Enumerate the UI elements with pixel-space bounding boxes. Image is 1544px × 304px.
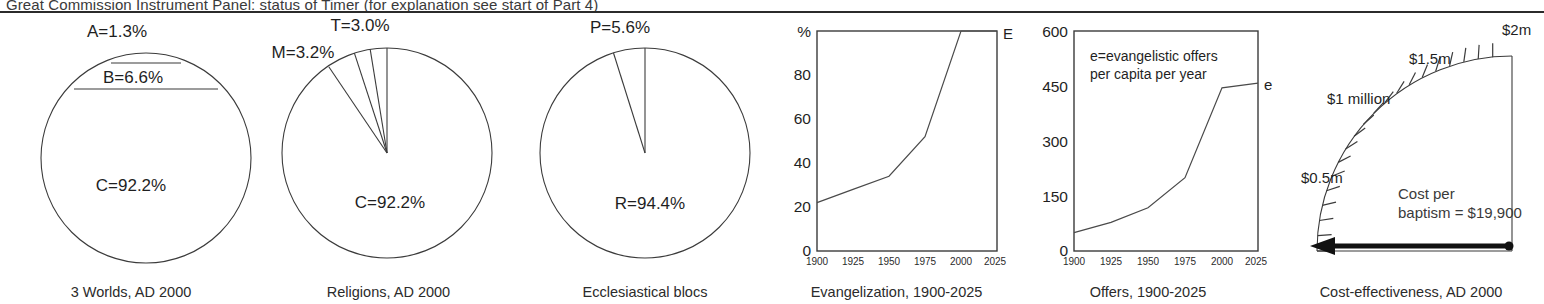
three-worlds-figure: A=1.3% B=6.6% C=92.2% (0, 13, 262, 275)
caption-evangelization: Evangelization, 1900-2025 (775, 284, 1018, 300)
series-line-offers (1074, 83, 1258, 233)
ytick-40: 40 (794, 154, 812, 171)
ytick-300: 300 (1042, 133, 1068, 150)
panel-three-worlds: A=1.3% B=6.6% C=92.2% 3 Worlds, AD 2000 (0, 13, 262, 304)
offers-note-line1: e=evangelistic offers (1090, 48, 1218, 64)
caption-three-worlds: 3 Worlds, AD 2000 (0, 284, 262, 300)
segment-label-c: C=92.2% (355, 193, 425, 212)
segment-label-t: T=3.0% (330, 16, 389, 35)
segment-label-c: C=92.2% (96, 176, 166, 195)
segment-label-b: B=6.6% (103, 68, 163, 87)
dial-label-0-5m: $0.5m (1301, 169, 1343, 186)
series-label-e: e (1264, 76, 1272, 93)
xtick-1900: 1900 (1063, 256, 1086, 267)
segment-label-p: P=5.6% (590, 18, 650, 37)
xtick-1950: 1950 (1137, 256, 1160, 267)
xtick-2025: 2025 (984, 256, 1007, 267)
offers-figure: 600 450 300 150 0 1900 1925 1950 1975 20… (1018, 13, 1278, 275)
xtick-2025: 2025 (1245, 256, 1268, 267)
ecclesiastical-svg: P=5.6% R=94.4% (515, 13, 775, 275)
ytick-150: 150 (1042, 188, 1068, 205)
ytick-60: 60 (794, 110, 812, 127)
caption-religions: Religions, AD 2000 (262, 284, 515, 300)
xtick-2000: 2000 (1211, 256, 1234, 267)
gauge-arc (1317, 56, 1512, 251)
religions-svg: T=3.0% M=3.2% C=92.2% (262, 13, 515, 275)
offers-note-line2: per capita per year (1090, 66, 1207, 82)
plot-frame (1074, 31, 1258, 251)
caption-cost-effectiveness: Cost-effectiveness, AD 2000 (1278, 284, 1544, 300)
panel-evangelization: % 80 60 40 20 0 1900 1925 1950 1975 2000… (775, 13, 1018, 304)
dial-label-2m: $2m (1502, 21, 1531, 38)
dial-label-1-5m: $1.5m (1409, 50, 1451, 67)
panel-cost-effectiveness: $0.5m $1 million $1.5m $2m Cost per bapt… (1278, 13, 1544, 304)
panel-religions: T=3.0% M=3.2% C=92.2% Religions, AD 2000 (262, 13, 515, 304)
xtick-2000: 2000 (950, 256, 973, 267)
panel-ecclesiastical-blocs: P=5.6% R=94.4% Ecclesiastical blocs (515, 13, 775, 304)
ytick-20: 20 (794, 198, 812, 215)
evangelization-svg: % 80 60 40 20 0 1900 1925 1950 1975 2000… (775, 13, 1018, 275)
xtick-1975: 1975 (914, 256, 937, 267)
xtick-1975: 1975 (1174, 256, 1197, 267)
ytick-600: 600 (1042, 23, 1068, 40)
ytick-450: 450 (1042, 78, 1068, 95)
gauge-note-line1: Cost per (1398, 185, 1455, 202)
xtick-1925: 1925 (1100, 256, 1123, 267)
xtick-1950: 1950 (878, 256, 901, 267)
xtick-1900: 1900 (806, 256, 829, 267)
instrument-panel-row: A=1.3% B=6.6% C=92.2% 3 Worlds, AD 2000 … (0, 13, 1544, 304)
segment-label-a: A=1.3% (87, 22, 147, 41)
series-line-evangelization (817, 31, 997, 203)
segment-label-m: M=3.2% (272, 43, 335, 62)
xtick-1925: 1925 (842, 256, 865, 267)
ytick-percent: % (797, 23, 811, 40)
three-worlds-svg: A=1.3% B=6.6% C=92.2% (0, 13, 262, 275)
plot-frame (817, 31, 997, 251)
segment-label-r: R=94.4% (615, 194, 685, 213)
ytick-80: 80 (794, 66, 812, 83)
series-label-E: E (1003, 25, 1013, 42)
dial-label-1-million: $1 million (1327, 90, 1390, 107)
caption-offers: Offers, 1900-2025 (1018, 284, 1278, 300)
caption-ecclesiastical-blocs: Ecclesiastical blocs (515, 284, 775, 300)
gauge-needle (1310, 237, 1514, 255)
offers-svg: 600 450 300 150 0 1900 1925 1950 1975 20… (1018, 13, 1278, 275)
evangelization-figure: % 80 60 40 20 0 1900 1925 1950 1975 2000… (775, 13, 1018, 275)
religions-figure: T=3.0% M=3.2% C=92.2% (262, 13, 515, 275)
cost-effectiveness-figure: $0.5m $1 million $1.5m $2m Cost per bapt… (1278, 13, 1544, 275)
panel-offers: 600 450 300 150 0 1900 1925 1950 1975 20… (1018, 13, 1278, 304)
ecclesiastical-figure: P=5.6% R=94.4% (515, 13, 775, 275)
gauge-note-line2: baptism = $19,900 (1398, 204, 1522, 221)
gauge-svg: $0.5m $1 million $1.5m $2m Cost per bapt… (1278, 13, 1544, 275)
